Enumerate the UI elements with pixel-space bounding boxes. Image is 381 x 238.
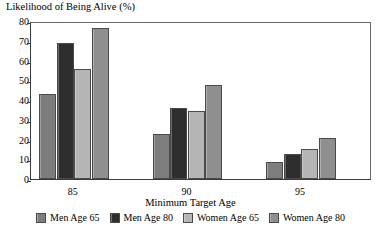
bar [57, 43, 74, 179]
x-axis-tick-label: 90 [152, 186, 222, 197]
bar-chart: Likelihood of Being Alive (%) 0102030405… [0, 0, 381, 238]
legend-item: Women Age 65 [183, 212, 259, 223]
legend-swatch-highlight [37, 214, 38, 222]
bar-highlight [189, 112, 190, 178]
legend-swatch [36, 213, 46, 223]
bar-group [266, 23, 336, 179]
bar [266, 162, 283, 179]
y-axis-tick [27, 142, 31, 143]
y-axis-tick-label: 40 [5, 96, 29, 106]
legend-label: Men Age 65 [50, 212, 99, 223]
y-axis-tick [27, 23, 31, 24]
y-axis-tick [27, 122, 31, 123]
bar-highlight [302, 150, 303, 178]
bar-highlight [171, 109, 172, 178]
y-axis-tick-label: 80 [5, 17, 29, 27]
y-axis-tick-label: 20 [5, 136, 29, 146]
bar-highlight [40, 95, 41, 178]
y-axis-tick [27, 181, 31, 182]
legend-swatch [183, 213, 193, 223]
x-axis-tick-label: 95 [265, 186, 335, 197]
y-axis-caption: Likelihood of Being Alive (%) [6, 1, 135, 13]
legend-label: Women Age 65 [197, 212, 259, 223]
y-axis-tick-label: 60 [5, 57, 29, 67]
y-axis-tick [27, 82, 31, 83]
bar [319, 138, 336, 179]
bar [74, 69, 91, 179]
bar [92, 28, 109, 179]
y-axis-tick [27, 63, 31, 64]
legend-swatch [110, 213, 120, 223]
plot-area [30, 22, 371, 180]
bar [301, 149, 318, 179]
y-axis-tick [27, 102, 31, 103]
bar-highlight [58, 44, 59, 178]
bar-highlight [154, 135, 155, 178]
bar-group [153, 23, 223, 179]
x-axis-caption: Minimum Target Age [0, 197, 381, 208]
y-axis-tick-label: 70 [5, 37, 29, 47]
legend-item: Men Age 65 [36, 212, 99, 223]
legend-swatch-highlight [184, 214, 185, 222]
x-axis-tick-label: 85 [38, 186, 108, 197]
legend-item: Women Age 80 [269, 212, 345, 223]
legend-item: Men Age 80 [110, 212, 173, 223]
y-axis-tick-label: 30 [5, 116, 29, 126]
y-axis-tick-label: 50 [5, 76, 29, 86]
bar [39, 94, 56, 179]
y-axis-tick-label: 0 [5, 175, 29, 185]
bar [153, 134, 170, 179]
legend-label: Men Age 80 [124, 212, 173, 223]
bar [188, 111, 205, 179]
bar [205, 85, 222, 179]
y-axis-tick [27, 43, 31, 44]
chart-legend: Men Age 65Men Age 80Women Age 65Women Ag… [0, 212, 381, 223]
bar [284, 154, 301, 179]
legend-swatch [269, 213, 279, 223]
bar [170, 108, 187, 179]
legend-swatch-highlight [270, 214, 271, 222]
bar-highlight [75, 70, 76, 178]
plot-inner [31, 23, 370, 179]
bar-highlight [93, 29, 94, 178]
bar-highlight [320, 139, 321, 178]
y-axis-tick-label: 10 [5, 155, 29, 165]
bar-highlight [267, 163, 268, 178]
legend-swatch-highlight [111, 214, 112, 222]
bar-highlight [285, 155, 286, 178]
bar-highlight [206, 86, 207, 178]
y-axis-tick [27, 161, 31, 162]
legend-label: Women Age 80 [283, 212, 345, 223]
bar-group [39, 23, 109, 179]
